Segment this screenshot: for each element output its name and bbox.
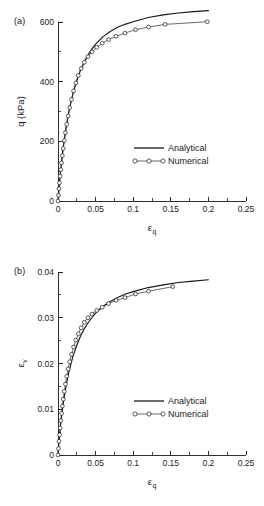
svg-text:0.02: 0.02	[37, 359, 54, 369]
svg-text:0.1: 0.1	[127, 458, 139, 468]
svg-text:0: 0	[49, 196, 54, 206]
chart-panel-a: (a) 00.050.10.150.20.250200400600 q (kPa…	[0, 0, 264, 253]
plot-b-ticks	[58, 272, 246, 455]
chart-panel-b: (b) 00.050.10.150.20.2500.010.020.030.04…	[0, 253, 264, 506]
svg-text:0.25: 0.25	[238, 458, 255, 468]
svg-text:0.15: 0.15	[163, 204, 180, 214]
plot-a-svg: 00.050.10.150.20.250200400600 q (kPa) εq…	[0, 0, 264, 253]
svg-text:Numerical: Numerical	[168, 409, 209, 419]
svg-text:0.25: 0.25	[238, 204, 255, 214]
plot-a-axes	[58, 22, 246, 201]
svg-text:0.03: 0.03	[37, 313, 54, 323]
svg-text:200: 200	[40, 136, 54, 146]
plot-b-svg: 00.050.10.150.20.2500.010.020.030.04 εv …	[0, 253, 264, 506]
svg-text:0: 0	[49, 450, 54, 460]
plot-b-series	[58, 280, 208, 455]
plot-a-tick-labels: 00.050.10.150.20.250200400600	[40, 17, 255, 214]
svg-text:600: 600	[40, 17, 54, 27]
svg-text:Analytical: Analytical	[168, 396, 207, 406]
plot-b-y-axis-title: εv	[15, 359, 28, 368]
svg-text:0.05: 0.05	[87, 458, 104, 468]
svg-text:0.04: 0.04	[37, 267, 54, 277]
figure-root: (a) 00.050.10.150.20.250200400600 q (kPa…	[0, 0, 264, 506]
svg-text:εq: εq	[148, 476, 157, 490]
svg-text:0.2: 0.2	[202, 204, 214, 214]
plot-a-x-axis-title: εq	[148, 222, 157, 236]
svg-text:0.05: 0.05	[87, 204, 104, 214]
svg-text:0.01: 0.01	[37, 404, 54, 414]
plot-b-x-axis-title: εq	[148, 476, 157, 490]
plot-b-markers	[56, 285, 174, 457]
plot-a-series	[58, 11, 208, 201]
svg-text:Numerical: Numerical	[168, 156, 209, 166]
svg-text:0.15: 0.15	[163, 458, 180, 468]
svg-text:εq: εq	[148, 222, 157, 236]
svg-text:0.2: 0.2	[202, 458, 214, 468]
svg-text:εv: εv	[15, 359, 28, 368]
svg-text:Analytical: Analytical	[168, 143, 207, 153]
svg-text:0: 0	[56, 458, 61, 468]
svg-text:0.1: 0.1	[127, 204, 139, 214]
plot-b-legend: AnalyticalNumerical	[133, 396, 209, 419]
plot-a-markers	[56, 20, 209, 203]
plot-b-axes	[58, 272, 246, 455]
plot-a-y-axis-title: q (kPa)	[15, 96, 26, 127]
plot-a-ticks	[58, 22, 246, 201]
svg-text:400: 400	[40, 77, 54, 87]
svg-text:0: 0	[56, 204, 61, 214]
plot-a-legend: AnalyticalNumerical	[133, 143, 209, 166]
